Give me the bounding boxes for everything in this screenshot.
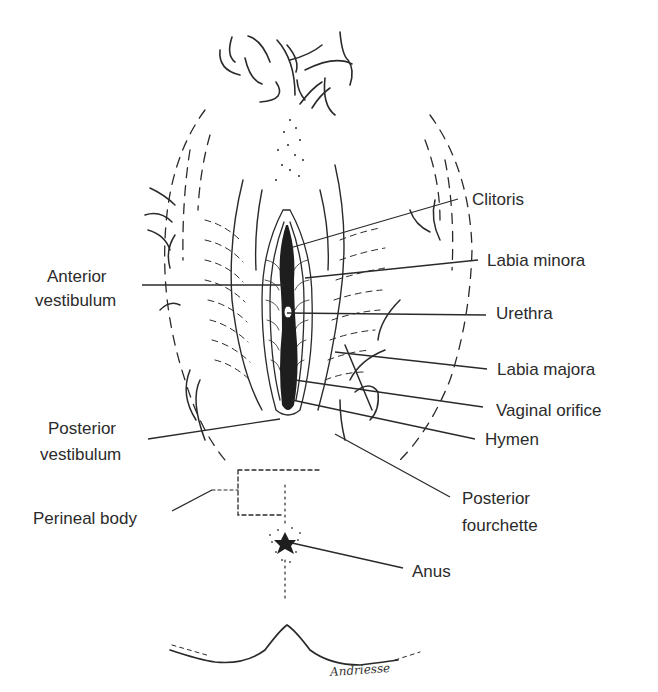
buttocks-curve (170, 625, 398, 665)
mons-stipple (275, 119, 304, 181)
leader-hymen (292, 400, 475, 439)
urethra-opening (284, 306, 292, 318)
label-posterior-vestibulum-line2: vestibulum (40, 444, 121, 465)
leader-clitoris (290, 199, 458, 248)
label-clitoris: Clitoris (472, 189, 524, 210)
leader-anus (292, 543, 403, 568)
label-urethra: Urethra (496, 303, 553, 324)
label-posterior-vestibulum-line1: Posterior (48, 418, 116, 439)
label-labia-majora: Labia majora (497, 359, 595, 380)
buttocks-curve-dashes (172, 645, 420, 660)
label-hymen: Hymen (485, 429, 539, 450)
leader-labia-majora (335, 352, 487, 369)
label-anterior-vestibulum-line1: Anterior (47, 266, 107, 287)
anus-drawing (269, 527, 301, 563)
leader-posterior-fourchette (335, 434, 450, 497)
label-vaginal-orifice: Vaginal orifice (496, 400, 602, 421)
label-anus: Anus (412, 561, 451, 582)
leader-perineal-body (172, 490, 212, 511)
anatomy-drawing (0, 0, 658, 692)
leader-urethra (287, 313, 486, 315)
leader-lines (142, 199, 487, 568)
label-labia-minora: Labia minora (487, 250, 585, 271)
label-anterior-vestibulum-line2: vestibulum (35, 290, 116, 311)
label-perineal-body: Perineal body (33, 508, 137, 529)
leader-posterior-vestibulum (148, 419, 280, 439)
perineal-body-outline (238, 470, 320, 515)
pubic-hair-strokes (220, 32, 352, 115)
leader-vaginal-orifice (295, 380, 483, 407)
label-posterior-fourchette-line1: Posterior (462, 488, 530, 509)
label-posterior-fourchette-line2: fourchette (462, 515, 538, 536)
